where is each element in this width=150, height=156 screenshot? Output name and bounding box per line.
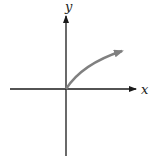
y-axis-label: y [64, 0, 73, 14]
x-axis-label: x [141, 82, 149, 97]
coordinate-diagram: x y [0, 0, 150, 156]
sqrt-curve [66, 51, 122, 89]
